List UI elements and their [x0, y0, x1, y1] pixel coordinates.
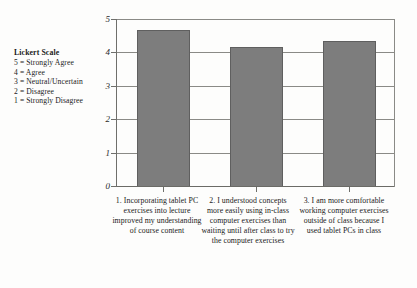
gridline-5 — [116, 19, 395, 20]
y-tick-mark-0 — [111, 186, 116, 187]
bar-1 — [137, 30, 190, 186]
y-tick-label-5: 5 — [106, 15, 111, 24]
x-tick-2 — [256, 187, 257, 192]
y-tick-mark-5 — [111, 19, 116, 20]
bar-2 — [230, 47, 283, 186]
x-tick-1 — [163, 187, 164, 192]
y-tick-label-4: 4 — [106, 48, 111, 57]
y-tick-label-2: 2 — [106, 115, 111, 124]
likert-scale-legend: Lickert Scale 5 = Strongly Agree 4 = Agr… — [14, 48, 106, 106]
legend-item-1: 1 = Strongly Disagree — [14, 96, 106, 106]
bar-3 — [323, 41, 376, 186]
y-tick-mark-4 — [111, 52, 116, 53]
x-axis-label-3: 3. I am more comfortable working compute… — [296, 196, 392, 236]
legend-item-5: 5 = Strongly Agree — [14, 58, 106, 68]
plot-area — [116, 19, 395, 186]
y-tick-mark-1 — [111, 153, 116, 154]
x-axis-label-2: 2. I understood concepts more easily usi… — [201, 196, 295, 246]
x-tick-3 — [349, 187, 350, 192]
legend-title: Lickert Scale — [14, 48, 106, 58]
plot-right-border — [394, 19, 395, 187]
legend-item-2: 2 = Disagree — [14, 87, 106, 97]
y-axis-ticks: 012345 — [116, 19, 117, 186]
y-tick-label-0: 0 — [106, 182, 111, 191]
y-tick-label-1: 1 — [106, 148, 111, 157]
y-tick-label-3: 3 — [106, 81, 111, 90]
legend-item-3: 3 = Neutral/Uncertain — [14, 77, 106, 87]
y-tick-mark-3 — [111, 86, 116, 87]
x-axis-label-1: 1. Incorporating tablet PC exercises int… — [112, 196, 202, 236]
chart-figure: Lickert Scale 5 = Strongly Agree 4 = Agr… — [0, 0, 417, 288]
y-tick-mark-2 — [111, 119, 116, 120]
legend-item-4: 4 = Agree — [14, 68, 106, 78]
